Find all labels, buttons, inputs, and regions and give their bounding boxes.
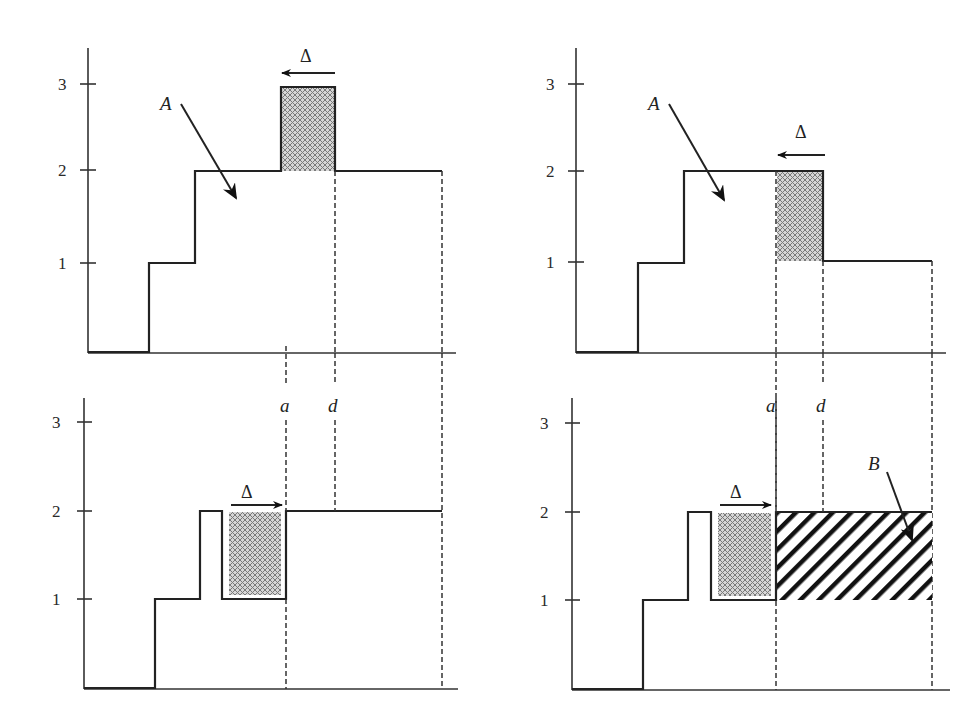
shifted-block — [281, 87, 335, 171]
label-A: A — [646, 93, 660, 114]
tick-label-3: 3 — [546, 75, 555, 94]
figure-canvas: 1 2 3 A Δ 1 2 3 A Δ — [0, 0, 967, 725]
arrow-A-icon — [669, 104, 724, 200]
label-B: B — [868, 453, 880, 474]
label-a: a — [280, 395, 290, 416]
tick-label-3: 3 — [540, 414, 549, 433]
tick-label-1: 1 — [540, 591, 549, 610]
tick-label-2: 2 — [58, 161, 67, 180]
tick-label-2: 2 — [546, 162, 555, 181]
connectors-left: a d — [280, 346, 442, 689]
label-a: a — [766, 395, 776, 416]
tick-label-1: 1 — [52, 590, 61, 609]
tick-label-2: 2 — [540, 503, 549, 522]
shifted-block — [718, 513, 771, 596]
label-delta: Δ — [730, 482, 742, 502]
tick-label-3: 3 — [58, 75, 67, 94]
panel-bottom-right: 1 2 3 B Δ — [540, 398, 950, 690]
panel-top-right: 1 2 3 A Δ — [546, 48, 946, 353]
tick-label-2: 2 — [52, 502, 61, 521]
shifted-block — [777, 172, 823, 261]
region-B — [777, 513, 932, 600]
step-curve — [576, 171, 932, 352]
label-d: d — [328, 395, 338, 416]
label-delta: Δ — [795, 122, 807, 142]
arrow-A-icon — [181, 104, 236, 198]
step-curve — [88, 87, 442, 352]
panel-bottom-left: 1 2 3 Δ — [52, 398, 458, 689]
label-A: A — [158, 93, 172, 114]
label-delta: Δ — [241, 482, 253, 502]
shifted-block — [229, 512, 281, 595]
label-d: d — [816, 395, 826, 416]
panel-top-left: 1 2 3 A Δ — [58, 46, 456, 353]
label-delta: Δ — [300, 46, 312, 66]
tick-label-3: 3 — [52, 413, 61, 432]
tick-label-1: 1 — [546, 253, 555, 272]
tick-label-1: 1 — [58, 254, 67, 273]
